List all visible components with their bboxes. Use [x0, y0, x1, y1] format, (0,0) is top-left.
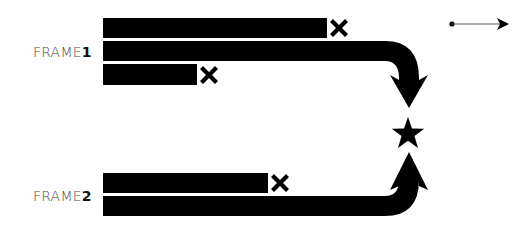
- frame2-bars: [103, 152, 428, 216]
- star-icon: [392, 117, 424, 148]
- cross-icon: [330, 19, 348, 37]
- frame2-bar-1: [103, 173, 268, 193]
- diagram-canvas: [0, 0, 521, 237]
- frame1-bars: [103, 18, 428, 108]
- cross-icon: [271, 174, 289, 192]
- cross-icon: [200, 66, 218, 84]
- legend-dot-arrow-icon: [449, 18, 509, 30]
- frame1-bar-1: [103, 18, 327, 38]
- frame1-bar-3: [103, 64, 197, 85]
